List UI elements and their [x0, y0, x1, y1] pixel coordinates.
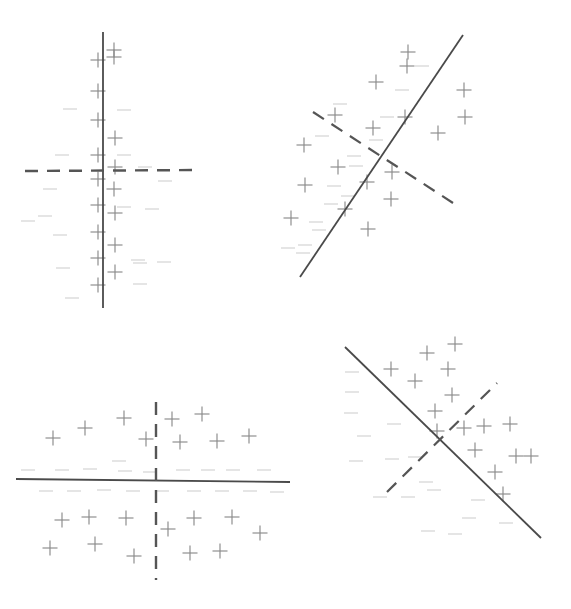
classification-figure — [0, 0, 571, 609]
figure-background — [0, 0, 571, 609]
figure-canvas — [0, 0, 571, 609]
